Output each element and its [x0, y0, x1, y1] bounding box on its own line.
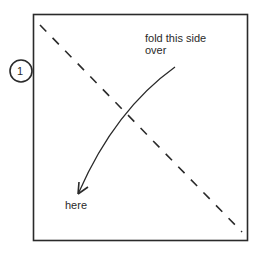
instruction-line-1: fold this side — [145, 33, 206, 44]
instruction-line-2: over — [145, 45, 166, 56]
fold-arrow — [79, 67, 175, 192]
step-number: 1 — [17, 66, 23, 77]
fold-diagram — [0, 0, 263, 255]
target-label: here — [65, 200, 87, 211]
